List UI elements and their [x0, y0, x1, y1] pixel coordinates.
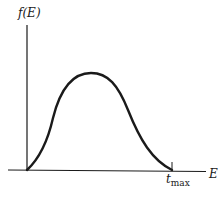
x-axis: [8, 170, 206, 172]
tmax-label-sub: max: [171, 178, 190, 188]
tmax-label: tmax: [166, 172, 190, 188]
distribution-plot: f(E) E tmax: [0, 0, 223, 201]
x-axis-label: E: [208, 167, 218, 181]
distribution-curve: [27, 73, 172, 170]
y-axis-label: f(E): [17, 6, 41, 20]
